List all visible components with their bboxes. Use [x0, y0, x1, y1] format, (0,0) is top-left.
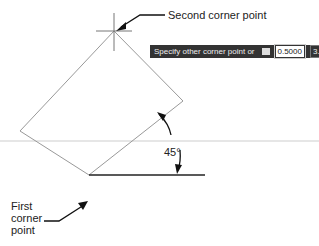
crosshair-cursor-icon: [96, 13, 132, 51]
height-input[interactable]: 3.0000: [310, 45, 319, 58]
first-corner-line3: point: [11, 224, 42, 236]
angle-label: 45°: [164, 146, 181, 158]
down-arrow-options-icon[interactable]: [262, 48, 270, 55]
leader-arrow-second: [116, 15, 165, 31]
first-corner-label: First corner point: [11, 200, 42, 236]
angle-arc-arrow: [157, 112, 182, 174]
second-corner-label: Second corner point: [168, 9, 266, 21]
drawing-canvas[interactable]: [0, 0, 319, 246]
leader-arrow-first: [44, 201, 88, 221]
width-input[interactable]: 0.5000: [275, 45, 305, 58]
tooltip-prompt: Specify other corner point or: [152, 47, 257, 56]
first-corner-line2: corner: [11, 212, 42, 224]
first-corner-line1: First: [11, 200, 42, 212]
dynamic-input-tooltip: Specify other corner point or 0.5000 3.0…: [150, 45, 319, 58]
